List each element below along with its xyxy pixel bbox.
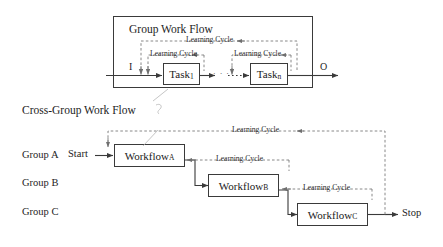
group-a-label: Group A	[22, 150, 58, 161]
scan-leader-marks	[143, 89, 168, 146]
workflow-a-subscript: A	[169, 153, 174, 162]
workflow-b-subscript: B	[263, 183, 268, 192]
workflow-b-c-learning-cycle-label: Learning Cycle	[303, 184, 350, 192]
bottom-outer-learning-cycle-path	[108, 131, 385, 215]
task-sequence-ellipsis: · · ·	[213, 70, 230, 78]
bottom-outer-learning-cycle-label: Learning Cycle	[232, 126, 279, 134]
task-n-subscript: n	[277, 72, 281, 81]
group-b-label: Group B	[22, 178, 58, 189]
task-1-name: Task	[169, 68, 190, 80]
workflow-c-label: WorkflowC	[297, 204, 368, 225]
output-label: O	[320, 62, 327, 72]
group-c-label: Group C	[22, 207, 58, 218]
diagram-canvas: Group Work Flow Learning Cycle Learning …	[0, 0, 443, 247]
workflow-a-name: Workflow	[125, 150, 169, 162]
input-label: I	[129, 62, 132, 72]
workflow-a-b-learning-cycle-label: Learning Cycle	[216, 155, 263, 163]
group-work-flow-title: Group Work Flow	[129, 24, 213, 36]
cross-group-work-flow-title: Cross-Group Work Flow	[22, 105, 136, 117]
task-1-learning-cycle-label: Learning Cycle	[150, 50, 197, 58]
stop-label: Stop	[402, 208, 421, 219]
workflow-c-subscript: C	[352, 212, 357, 221]
workflow-c-name: Workflow	[308, 209, 352, 221]
task-1-label: Task1	[163, 64, 200, 84]
task-n-label: Taskn	[250, 64, 288, 84]
workflow-a-label: WorkflowA	[114, 145, 185, 166]
workflow-b-name: Workflow	[219, 180, 263, 192]
task-n-learning-cycle-label: Learning Cycle	[234, 50, 281, 58]
top-outer-learning-cycle-label: Learning Cycle	[186, 36, 233, 44]
task-1-subscript: 1	[190, 72, 194, 81]
task-n-name: Task	[257, 68, 278, 80]
workflow-b-label: WorkflowB	[208, 175, 279, 196]
start-label: Start	[68, 149, 88, 160]
